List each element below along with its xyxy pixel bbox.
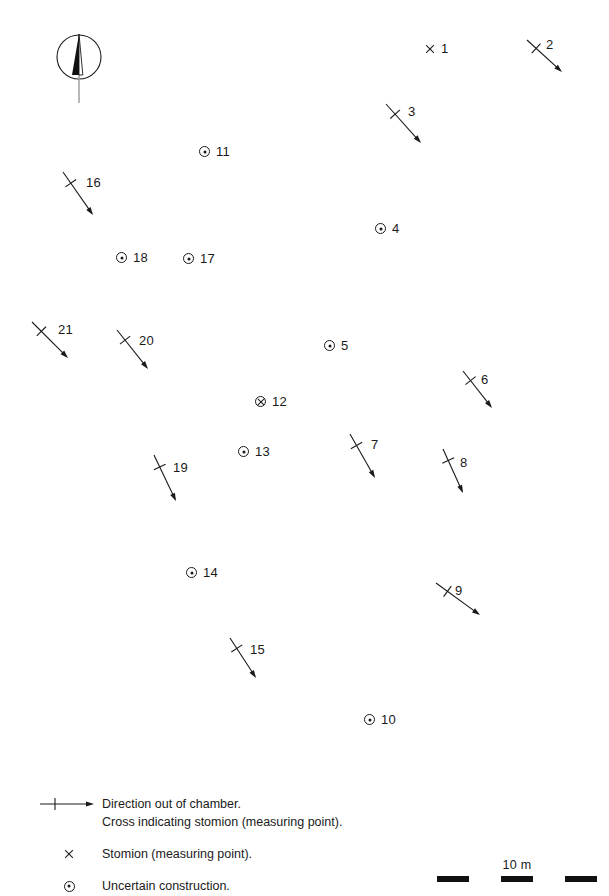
map-marker-label: 12 [272, 395, 287, 408]
crossed-circle-marker-icon [255, 396, 266, 407]
map-marker-17[interactable]: 17 [183, 252, 215, 265]
map-marker-1[interactable]: 1 [424, 42, 448, 55]
map-canvas [0, 0, 609, 896]
legend-row: Uncertain construction. [36, 877, 342, 895]
uncertain-construction-marker-icon [116, 252, 127, 263]
uncertain-construction-marker-icon [324, 340, 335, 351]
uncertain-construction-marker-icon [64, 881, 75, 892]
legend-text-line: Stomion (measuring point). [102, 845, 252, 863]
legend-text: Stomion (measuring point). [102, 845, 252, 863]
map-marker-label: 11 [216, 145, 230, 158]
map-marker-11[interactable]: 11 [199, 145, 230, 158]
map-marker-label: 18 [133, 251, 148, 264]
map-marker-10[interactable]: 10 [364, 713, 396, 726]
uncertain-construction-marker-icon [186, 567, 197, 578]
map-marker-label: 5 [341, 339, 348, 352]
legend-text: Direction out of chamber.Cross indicatin… [102, 795, 342, 831]
legend-row: Direction out of chamber.Cross indicatin… [36, 795, 342, 831]
legend-text-line: Cross indicating stomion (measuring poin… [102, 813, 342, 831]
map-marker-12[interactable]: 12 [255, 395, 287, 408]
uncertain-construction-marker-icon [375, 223, 386, 234]
scale-bar-segment [469, 876, 501, 882]
legend-text: Uncertain construction. [102, 877, 230, 895]
legend-uncertain-construction-icon [36, 881, 102, 892]
map-marker-label: 1 [441, 42, 448, 55]
uncertain-construction-marker-icon [238, 446, 249, 457]
legend-text-line: Direction out of chamber. [102, 795, 342, 813]
stomion-marker-icon [424, 43, 435, 54]
north-arrow-icon [53, 31, 105, 113]
map-marker-label: 10 [381, 713, 396, 726]
stomion-marker-icon [64, 849, 75, 860]
uncertain-construction-marker-icon [199, 146, 210, 157]
map-marker-14[interactable]: 14 [186, 566, 218, 579]
uncertain-construction-marker-icon [183, 253, 194, 264]
uncertain-construction-marker-icon [364, 714, 375, 725]
map-marker-label: 13 [255, 445, 270, 458]
map-marker-label: 17 [200, 252, 215, 265]
scale-bar-segment [533, 876, 565, 882]
map-marker-18[interactable]: 18 [116, 251, 148, 264]
scale-bar-segment [565, 876, 597, 882]
scale-bar-label: 10 m [437, 858, 597, 872]
legend: Direction out of chamber.Cross indicatin… [36, 795, 342, 896]
scale-bar-segment [501, 876, 533, 882]
map-marker-label: 14 [203, 566, 218, 579]
scale-bar: 10 m [437, 858, 597, 882]
map-marker-13[interactable]: 13 [238, 445, 270, 458]
scale-bar-segment [437, 876, 469, 882]
map-marker-5[interactable]: 5 [324, 339, 348, 352]
legend-text-line: Uncertain construction. [102, 877, 230, 895]
legend-direction-arrow-icon [36, 795, 102, 811]
legend-row: Stomion (measuring point). [36, 845, 342, 863]
map-marker-label: 4 [392, 222, 399, 235]
map-marker-4[interactable]: 4 [375, 222, 399, 235]
scale-bar-segments [437, 876, 597, 882]
legend-stomion-icon [36, 849, 102, 860]
